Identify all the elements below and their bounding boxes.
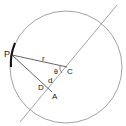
label-d-lower: d <box>48 76 52 85</box>
label-theta: θ <box>54 68 58 75</box>
line-pa <box>12 55 52 92</box>
label-r: r <box>42 54 45 63</box>
axis-line <box>20 5 117 122</box>
radius-line-pc <box>12 55 67 67</box>
label-d-upper: D <box>38 83 44 92</box>
label-c: C <box>67 67 73 76</box>
label-a: A <box>52 92 58 101</box>
geometry-diagram: P r θ C d D A <box>0 0 126 126</box>
label-p: P <box>4 49 10 59</box>
